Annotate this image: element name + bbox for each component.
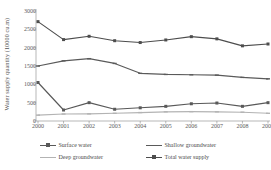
data-point-marker	[37, 20, 40, 23]
x-axis-tick-label: 2007	[211, 123, 223, 129]
data-point-marker	[164, 105, 167, 108]
series-line	[38, 112, 268, 115]
x-axis-tick-label: 2002	[83, 123, 95, 129]
y-axis-title-text: Water supply quantity (10000 cu.m)	[4, 18, 10, 111]
series-line	[38, 59, 268, 79]
series-deep-groundwater	[36, 112, 270, 115]
data-point-marker	[215, 102, 218, 105]
data-point-marker	[139, 41, 142, 44]
data-point-marker	[190, 35, 193, 38]
x-axis-tick-label: 2003	[109, 123, 121, 129]
y-axis-tick-labels: 300025002000150010005000	[13, 0, 37, 128]
y-axis-title: Water supply quantity (10000 cu.m)	[0, 0, 14, 128]
x-axis-tick-label: 2000	[32, 123, 44, 129]
legend-swatch-icon	[40, 154, 56, 161]
x-axis-tick-labels: 2000200120022003200420052006200720082009	[38, 123, 268, 135]
legend-item[interactable]: Surface water	[30, 139, 138, 151]
series-shallow-groundwater	[36, 59, 270, 79]
legend-label: Shallow groundwater	[165, 142, 217, 148]
legend-item[interactable]: Total water supply	[138, 151, 255, 163]
data-point-marker	[113, 39, 116, 42]
data-point-marker	[37, 81, 40, 84]
data-point-marker	[62, 109, 65, 112]
data-point-marker	[113, 108, 116, 111]
data-point-marker	[190, 102, 193, 105]
chart-legend: Surface waterShallow groundwaterDeep gro…	[30, 139, 255, 163]
series-line	[38, 22, 268, 46]
data-point-marker	[88, 101, 91, 104]
legend-swatch-icon	[146, 154, 162, 161]
data-point-marker	[215, 37, 218, 40]
plot-svg	[38, 11, 268, 121]
data-point-marker	[164, 38, 167, 41]
legend-item[interactable]: Deep groundwater	[30, 151, 138, 163]
data-point-marker	[241, 105, 244, 108]
legend-swatch-icon	[40, 142, 56, 149]
plot-area	[38, 11, 268, 121]
line-chart: Water supply quantity (10000 cu.m) 30002…	[0, 0, 271, 170]
data-point-marker	[267, 101, 270, 104]
series-total-water-supply	[37, 20, 270, 47]
series-surface-water	[37, 81, 270, 112]
x-axis-tick-label: 2008	[236, 123, 248, 129]
x-axis-tick-label: 2005	[160, 123, 172, 129]
data-point-marker	[139, 106, 142, 109]
legend-item[interactable]: Shallow groundwater	[138, 139, 255, 151]
legend-label: Deep groundwater	[59, 154, 103, 160]
x-axis-tick-label: 2001	[58, 123, 70, 129]
x-axis-tick-label: 2006	[185, 123, 197, 129]
x-axis-tick-label: 2004	[134, 123, 146, 129]
legend-swatch-icon	[146, 142, 162, 149]
legend-label: Total water supply	[165, 154, 210, 160]
x-axis-tick-label: 2009	[262, 123, 271, 129]
data-point-marker	[267, 43, 270, 46]
data-point-marker	[62, 38, 65, 41]
data-point-marker	[88, 35, 91, 38]
legend-label: Surface water	[59, 142, 92, 148]
series-line	[38, 83, 268, 111]
data-point-marker	[241, 44, 244, 47]
